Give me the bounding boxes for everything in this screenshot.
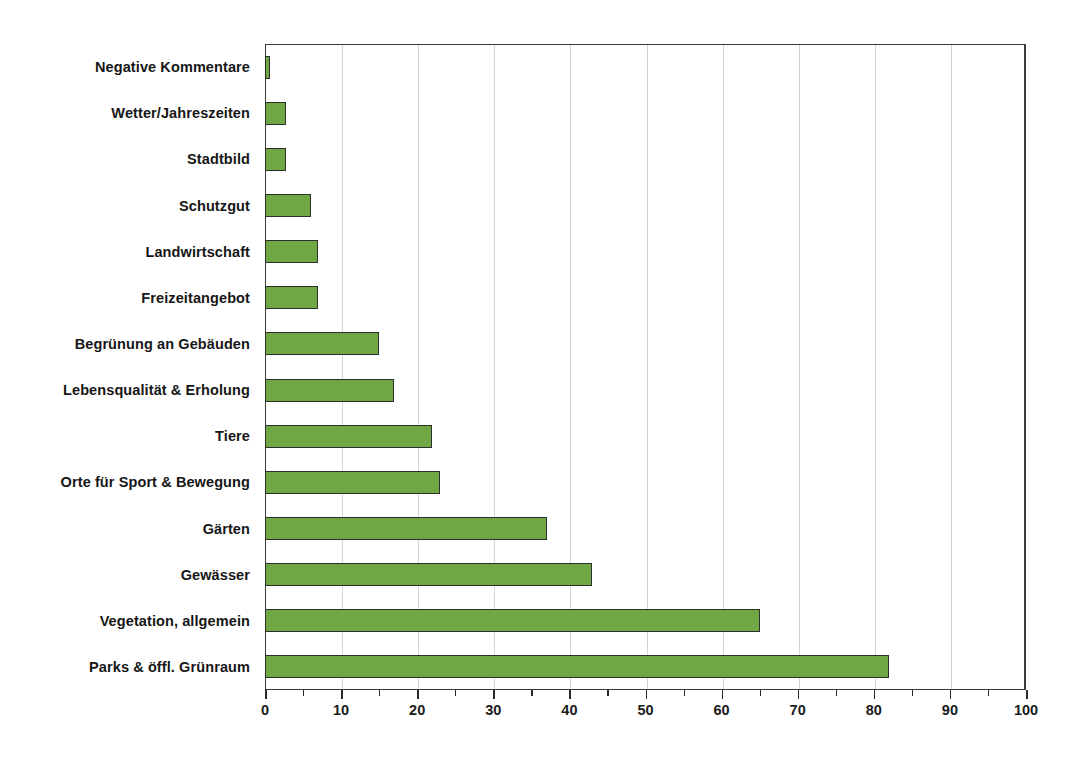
x-tick-label: 90 — [942, 703, 958, 718]
x-tick-minor — [912, 690, 913, 696]
x-tick-major — [874, 690, 876, 699]
x-tick-major — [341, 690, 343, 699]
category-label: Tiere — [0, 429, 250, 444]
x-tick-label: 0 — [261, 703, 269, 718]
x-tick-major — [722, 690, 724, 699]
bar — [265, 655, 889, 678]
category-label: Landwirtschaft — [0, 245, 250, 260]
x-tick-minor — [988, 690, 989, 696]
x-tick-label: 40 — [561, 703, 577, 718]
bar — [265, 332, 379, 355]
x-tick-major — [569, 690, 571, 699]
category-label: Parks & öffl. Grünraum — [0, 660, 250, 675]
x-tick-minor — [531, 690, 532, 696]
x-tick-label: 20 — [409, 703, 425, 718]
bar — [265, 379, 394, 402]
bar — [265, 56, 270, 79]
x-tick-minor — [760, 690, 761, 696]
bar — [265, 240, 318, 263]
x-tick-label: 30 — [485, 703, 501, 718]
x-tick-major — [1026, 690, 1028, 699]
x-tick-major — [950, 690, 952, 699]
x-axis-ticks — [265, 690, 1026, 700]
bar — [265, 286, 318, 309]
x-tick-label: 80 — [866, 703, 882, 718]
x-tick-major — [798, 690, 800, 699]
x-tick-major — [265, 690, 267, 699]
x-tick-minor — [684, 690, 685, 696]
category-label: Gärten — [0, 522, 250, 537]
bar — [265, 425, 432, 448]
bar-chart: Negative KommentareWetter/JahreszeitenSt… — [0, 0, 1070, 764]
category-label: Wetter/Jahreszeiten — [0, 106, 250, 121]
x-tick-label: 10 — [333, 703, 349, 718]
x-tick-minor — [379, 690, 380, 696]
bar — [265, 148, 286, 171]
x-tick-label: 70 — [790, 703, 806, 718]
x-tick-label: 60 — [714, 703, 730, 718]
x-tick-major — [417, 690, 419, 699]
category-label: Vegetation, allgemein — [0, 614, 250, 629]
x-tick-minor — [836, 690, 837, 696]
x-tick-label: 100 — [1014, 703, 1038, 718]
x-axis-tick-labels: 0102030405060708090100 — [265, 703, 1026, 729]
x-tick-minor — [303, 690, 304, 696]
category-label: Negative Kommentare — [0, 60, 250, 75]
category-label: Gewässer — [0, 568, 250, 583]
bar — [265, 563, 592, 586]
bar — [265, 102, 286, 125]
category-label: Begrünung an Gebäuden — [0, 337, 250, 352]
category-label: Stadtbild — [0, 152, 250, 167]
x-tick-label: 50 — [637, 703, 653, 718]
x-tick-minor — [455, 690, 456, 696]
bar — [265, 194, 311, 217]
x-tick-major — [646, 690, 648, 699]
category-label: Orte für Sport & Bewegung — [0, 475, 250, 490]
category-axis-labels: Negative KommentareWetter/JahreszeitenSt… — [0, 44, 258, 690]
x-tick-minor — [607, 690, 608, 696]
category-label: Freizeitangebot — [0, 291, 250, 306]
bar — [265, 609, 760, 632]
bars-layer — [265, 44, 1026, 690]
category-label: Lebensqualität & Erholung — [0, 383, 250, 398]
bar — [265, 517, 547, 540]
x-tick-major — [493, 690, 495, 699]
bar — [265, 471, 440, 494]
category-label: Schutzgut — [0, 199, 250, 214]
